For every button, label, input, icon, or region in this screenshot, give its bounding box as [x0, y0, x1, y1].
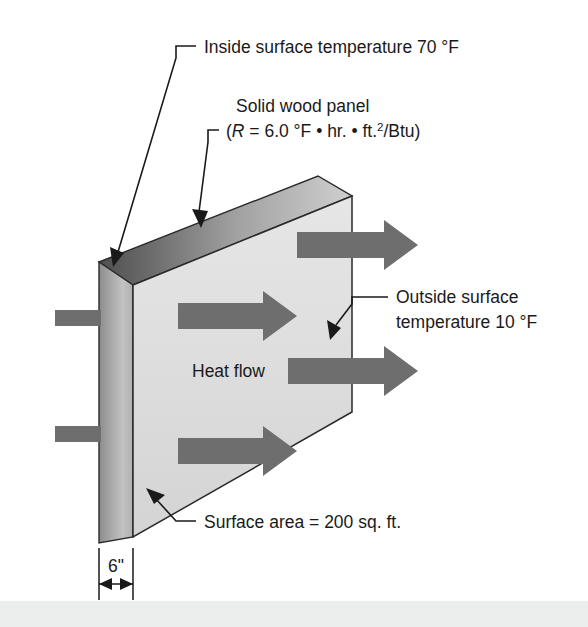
leader-inside-surface: [118, 46, 196, 252]
r-value-symbol: R: [232, 121, 245, 141]
label-r-value: (R = 6.0 °F • hr. • ft.2/Btu): [226, 121, 420, 141]
heat-arrow-in-lower: [55, 426, 101, 442]
label-outside-surface-line1: Outside surface: [396, 287, 519, 307]
label-panel-name: Solid wood panel: [236, 96, 369, 116]
label-thickness: 6": [108, 556, 124, 576]
r-value-equation: = 6.0 °F • hr. • ft.: [244, 121, 377, 141]
label-outside-surface-line2: temperature 10 °F: [396, 312, 537, 332]
label-inside-surface: Inside surface temperature 70 °F: [204, 37, 459, 57]
bottom-band: [0, 601, 588, 627]
label-surface-area: Surface area = 200 sq. ft.: [204, 512, 401, 532]
dim-arrowhead-left: [99, 578, 112, 590]
dim-arrowhead-right: [120, 578, 133, 590]
leader-wood-panel: [199, 130, 219, 212]
panel-left-face: [99, 262, 133, 543]
label-heat-flow: Heat flow: [192, 361, 265, 381]
r-value-tail: /Btu): [383, 121, 420, 141]
heat-arrow-in-upper: [55, 310, 101, 326]
panel-illustration: Inside surface temperature 70 °F Solid w…: [0, 0, 588, 627]
heat-flow-diagram: Inside surface temperature 70 °F Solid w…: [0, 0, 588, 627]
